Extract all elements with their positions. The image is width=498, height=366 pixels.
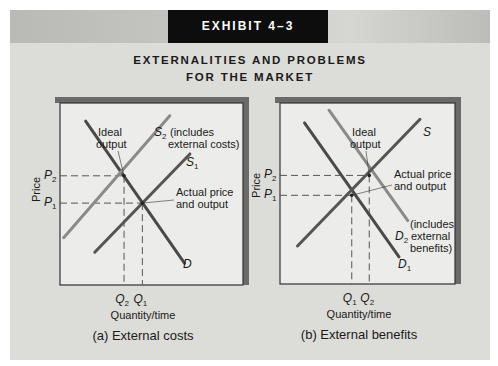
annotation-d2-line3: benefits) bbox=[410, 242, 452, 254]
frame-shadow-right bbox=[455, 97, 461, 284]
x-tick-Q2: Q2 bbox=[360, 291, 374, 307]
x-axis-label: Quantity/time bbox=[111, 309, 176, 321]
series-label-D: D bbox=[183, 257, 192, 271]
frame-shadow-top bbox=[55, 97, 249, 103]
annotation-s2-line1: (includes bbox=[170, 126, 215, 138]
y-tick-P1: P1 bbox=[264, 187, 277, 203]
y-tick-P2: P2 bbox=[44, 168, 57, 184]
annotation-actual-line2: and output bbox=[394, 180, 446, 192]
series-label-S: S bbox=[423, 125, 431, 139]
annotation-actual-line2: and output bbox=[176, 198, 228, 210]
y-axis-label: Price bbox=[250, 173, 262, 198]
annotation-ideal-line2: output bbox=[350, 138, 381, 150]
y-axis-label: Price bbox=[30, 177, 42, 202]
annotation-ideal-line1: Ideal bbox=[352, 126, 376, 138]
chart-panel-b: P2P1Q1Q2PriceQuantity/time(b) External b… bbox=[250, 97, 461, 342]
annotation-ideal-line1: Ideal bbox=[98, 126, 122, 138]
x-axis-label: Quantity/time bbox=[327, 308, 392, 320]
x-tick-Q1: Q1 bbox=[343, 291, 357, 307]
charts-canvas: P2P1Q2Q1PriceQuantity/time(a) External c… bbox=[0, 0, 498, 366]
frame-shadow-right bbox=[243, 97, 249, 285]
y-tick-P2: P2 bbox=[264, 167, 277, 183]
frame-shadow-top bbox=[275, 97, 461, 103]
y-tick-P1: P1 bbox=[44, 195, 57, 211]
chart-panel-a: P2P1Q2Q1PriceQuantity/time(a) External c… bbox=[30, 97, 249, 343]
annotation-d2-line2: external bbox=[411, 230, 450, 242]
annotation-actual-line1: Actual price bbox=[394, 168, 451, 180]
x-tick-Q2: Q2 bbox=[115, 292, 129, 308]
panel-caption: (b) External benefits bbox=[301, 327, 418, 342]
annotation-actual-line1: Actual price bbox=[176, 186, 233, 198]
x-tick-Q1: Q1 bbox=[133, 292, 147, 308]
annotation-ideal-line2: output bbox=[96, 138, 127, 150]
annotation-s2-line2: external costs) bbox=[168, 138, 240, 150]
panel-caption: (a) External costs bbox=[92, 328, 194, 343]
annotation-d2-line1: (includes bbox=[410, 218, 455, 230]
